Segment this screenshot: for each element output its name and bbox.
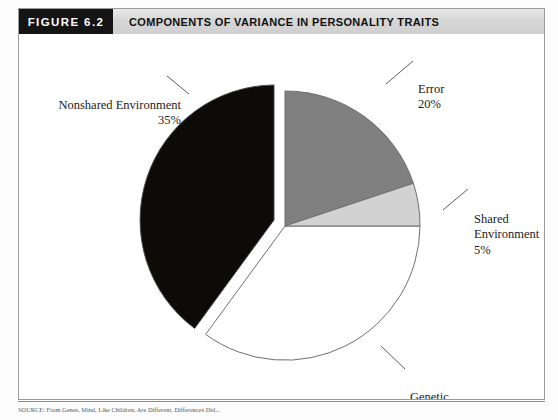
leader-line-genetic xyxy=(381,346,405,369)
figure-number-box: FIGURE 6.2 xyxy=(19,9,113,34)
label-nonshared-environment-percent: 35% xyxy=(41,113,181,128)
label-shared-environment-name-line2: Environment xyxy=(474,227,539,242)
source-divider xyxy=(18,401,545,402)
figure-title: COMPONENTS OF VARIANCE IN PERSONALITY TR… xyxy=(129,16,439,28)
figure-page: FIGURE 6.2 COMPONENTS OF VARIANCE IN PER… xyxy=(0,0,558,420)
pie-chart-svg xyxy=(19,34,544,399)
source-note: SOURCE: From Genes, Mind, Like Children,… xyxy=(18,406,548,414)
label-shared-environment-name-line1: Shared xyxy=(474,212,509,226)
label-error-name: Error xyxy=(418,82,444,96)
label-genetic: Genetic 40% xyxy=(410,390,449,399)
leader-line-shared xyxy=(443,189,468,210)
label-shared-environment: Shared Environment 5% xyxy=(474,212,539,258)
label-genetic-name: Genetic xyxy=(410,390,449,399)
figure-title-wrap: COMPONENTS OF VARIANCE IN PERSONALITY TR… xyxy=(113,9,544,34)
leader-line-error xyxy=(386,61,413,84)
figure-header: FIGURE 6.2 COMPONENTS OF VARIANCE IN PER… xyxy=(19,9,544,34)
label-error-percent: 20% xyxy=(418,97,444,112)
label-nonshared-environment-name: Nonshared Environment xyxy=(58,98,181,112)
pie-chart-area: Nonshared Environment 35% Error 20% Shar… xyxy=(19,34,544,399)
label-error: Error 20% xyxy=(418,82,444,113)
label-nonshared-environment: Nonshared Environment 35% xyxy=(41,98,181,129)
figure-number-label: FIGURE 6.2 xyxy=(28,16,105,28)
label-shared-environment-percent: 5% xyxy=(474,243,539,258)
leader-line-nonshared xyxy=(167,76,189,94)
